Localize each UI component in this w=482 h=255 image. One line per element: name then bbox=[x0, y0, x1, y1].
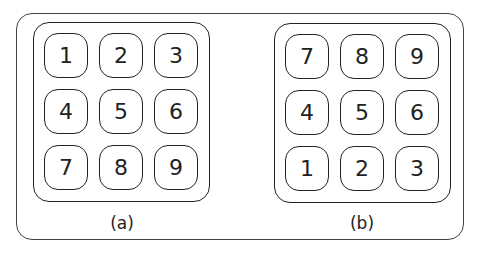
key: 9 bbox=[154, 145, 198, 190]
key: 2 bbox=[99, 33, 143, 78]
caption-b: (b) bbox=[332, 213, 392, 233]
key: 8 bbox=[340, 34, 384, 79]
key: 4 bbox=[44, 89, 88, 134]
keypad-b: 7 8 9 4 5 6 1 2 3 bbox=[274, 23, 451, 203]
keypad-a: 1 2 3 4 5 6 7 8 9 bbox=[33, 22, 210, 202]
key: 4 bbox=[285, 90, 329, 135]
key: 7 bbox=[285, 34, 329, 79]
key: 7 bbox=[44, 145, 88, 190]
key: 8 bbox=[99, 145, 143, 190]
key: 3 bbox=[154, 33, 198, 78]
key: 5 bbox=[340, 90, 384, 135]
caption-a: (a) bbox=[92, 213, 152, 233]
key: 5 bbox=[99, 89, 143, 134]
key: 9 bbox=[395, 34, 439, 79]
key: 1 bbox=[44, 33, 88, 78]
key: 1 bbox=[285, 146, 329, 191]
key: 2 bbox=[340, 146, 384, 191]
key: 6 bbox=[154, 89, 198, 134]
key: 6 bbox=[395, 90, 439, 135]
key: 3 bbox=[395, 146, 439, 191]
